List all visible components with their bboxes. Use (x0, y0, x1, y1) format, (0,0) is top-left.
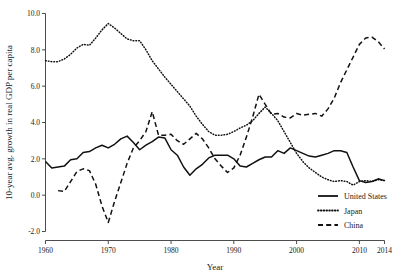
x-tick-label: 2000 (289, 246, 304, 255)
legend-label-china: China (344, 221, 364, 230)
series-line-china (58, 37, 384, 222)
x-tick-label: 1960 (38, 246, 53, 255)
y-tick-label: 6.0 (31, 82, 41, 91)
x-tick-label: 2010 (352, 246, 367, 255)
x-tick-label: 2014 (377, 246, 392, 255)
y-tick-label: 4.0 (31, 118, 41, 127)
x-tick-label: 1990 (226, 246, 241, 255)
y-tick-label: 8.0 (31, 46, 41, 55)
y-tick-label: -2.0 (28, 227, 40, 236)
y-tick-label: 0.0 (31, 191, 41, 200)
y-axis-title: 10-year avg. growth in real GDP per capi… (4, 45, 14, 200)
series-group (46, 23, 385, 222)
legend-label-japan: Japan (344, 207, 362, 216)
x-axis-title: Year (207, 262, 224, 272)
y-axis: -2.00.02.04.06.08.010.0 (27, 9, 46, 236)
line-chart: -2.00.02.04.06.08.010.0 1960197019801990… (0, 0, 406, 276)
y-tick-label: 2.0 (31, 155, 41, 164)
legend-label-united-states: United States (344, 192, 387, 201)
x-tick-label: 1980 (164, 246, 179, 255)
chart-legend: United StatesJapanChina (318, 192, 387, 230)
x-tick-label: 1970 (101, 246, 116, 255)
chart-figure: -2.00.02.04.06.08.010.0 1960197019801990… (0, 0, 406, 276)
x-axis: 1960197019801990200020102014 (38, 241, 392, 255)
series-line-japan (46, 23, 385, 185)
y-tick-label: 10.0 (27, 9, 40, 18)
